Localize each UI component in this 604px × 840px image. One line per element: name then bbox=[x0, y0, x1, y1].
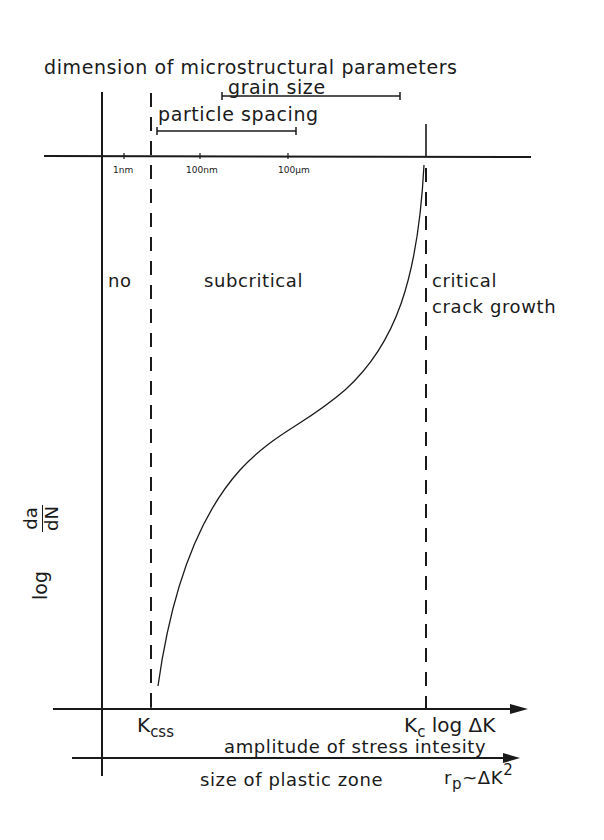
y-axis-log: log bbox=[29, 571, 51, 600]
kc-log-delta-k-label: Kc log ΔK bbox=[404, 715, 495, 735]
rp-sub: p bbox=[452, 775, 462, 793]
scale-label-1nm: 1nm bbox=[113, 166, 133, 175]
rp-relation-label: rp~ΔK2 bbox=[444, 769, 513, 787]
da-dn-fraction: da dN bbox=[22, 504, 61, 533]
diagram-canvas bbox=[0, 0, 604, 840]
particle-spacing-range-bar bbox=[157, 127, 296, 135]
grain-size-label: grain size bbox=[228, 78, 326, 97]
rp-main: r bbox=[444, 767, 452, 788]
region-crack-growth-label: crack growth bbox=[432, 298, 556, 316]
y-axis-numerator: da bbox=[22, 505, 43, 531]
region-subcritical-label: subcritical bbox=[204, 272, 303, 290]
region-no-label: no bbox=[108, 272, 132, 290]
plastic-zone-label: size of plastic zone bbox=[200, 771, 383, 789]
kcss-main: K bbox=[137, 713, 150, 737]
log-delta-k-axis-arrow bbox=[510, 704, 528, 714]
diagram-title: dimension of microstructural parameters bbox=[44, 58, 458, 77]
kcss-label: Kcss bbox=[137, 715, 174, 735]
crack-growth-curve bbox=[158, 165, 424, 686]
particle-spacing-label: particle spacing bbox=[158, 105, 319, 124]
scale-label-100um: 100µm bbox=[278, 166, 310, 175]
rp-relation: ~ΔK bbox=[462, 767, 503, 788]
kc-main: K bbox=[404, 713, 417, 737]
log-delta-k-label: log ΔK bbox=[432, 713, 496, 737]
amplitude-stress-intensity-label: amplitude of stress intesity bbox=[224, 738, 486, 756]
kcss-sub: css bbox=[150, 723, 174, 741]
rp-exponent: 2 bbox=[503, 761, 513, 779]
y-axis-label: log da dN bbox=[22, 504, 61, 600]
y-axis-denominator: dN bbox=[43, 504, 61, 533]
scale-label-100nm: 100nm bbox=[186, 166, 218, 175]
region-critical-label: critical bbox=[432, 272, 497, 290]
